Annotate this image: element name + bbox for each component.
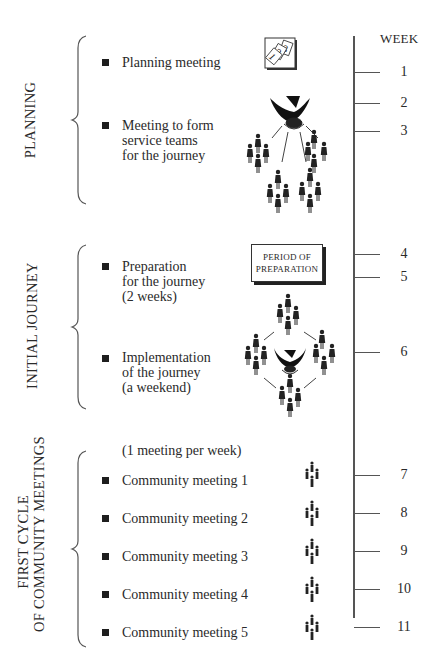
item-community-meeting-3: Community meeting 3 bbox=[122, 549, 248, 564]
dove-surrounded-by-people-icon bbox=[244, 292, 344, 420]
bullet bbox=[102, 122, 109, 129]
brace-first-cycle bbox=[70, 449, 90, 649]
week-axis-title: WEEK bbox=[380, 31, 418, 47]
week-label: 10 bbox=[389, 581, 419, 597]
week-tick bbox=[354, 103, 380, 104]
week-tick bbox=[354, 352, 380, 353]
brace-initial-journey bbox=[70, 243, 90, 411]
week-label: 9 bbox=[389, 543, 419, 559]
phase-label-line-2: OF COMMUNITY MEETINGS bbox=[31, 452, 47, 632]
bullet bbox=[102, 553, 109, 560]
bullet bbox=[102, 263, 109, 270]
brace-planning bbox=[70, 34, 90, 206]
bullet bbox=[102, 59, 109, 66]
week-tick bbox=[354, 627, 380, 628]
week-tick bbox=[354, 513, 380, 514]
item-form-service-teams: Meeting to form service teams for the jo… bbox=[122, 118, 214, 163]
week-label: 8 bbox=[389, 505, 419, 521]
calendar-123-icon: 3 2 1 bbox=[263, 36, 299, 72]
bullet bbox=[102, 355, 109, 362]
item-preparation: Preparation for the journey (2 weeks) bbox=[122, 259, 205, 304]
small-group-icon bbox=[303, 460, 321, 490]
period-of-preparation-box: PERIOD OF PREPARATION bbox=[251, 244, 323, 282]
item-community-meeting-2: Community meeting 2 bbox=[122, 511, 248, 526]
item-implementation: Implementation of the journey (a weekend… bbox=[122, 350, 211, 395]
week-label: 7 bbox=[389, 467, 419, 483]
week-label: 2 bbox=[389, 95, 419, 111]
phase-label-first-cycle: FIRST CYCLE OF COMMUNITY MEETINGS bbox=[15, 452, 49, 632]
week-label: 5 bbox=[389, 269, 419, 285]
week-label: 6 bbox=[389, 344, 419, 360]
small-group-icon bbox=[303, 499, 321, 529]
bullet bbox=[102, 477, 109, 484]
item-planning-meeting: Planning meeting bbox=[122, 55, 220, 70]
small-group-icon bbox=[303, 613, 321, 643]
item-community-meeting-5: Community meeting 5 bbox=[122, 625, 248, 640]
bullet bbox=[102, 515, 109, 522]
week-label: 3 bbox=[389, 123, 419, 139]
week-label: 1 bbox=[389, 64, 419, 80]
week-tick bbox=[354, 277, 380, 278]
phase-label-line-1: FIRST CYCLE bbox=[15, 452, 31, 632]
phase-label-planning: PLANNING bbox=[22, 80, 38, 160]
item-community-meeting-1: Community meeting 1 bbox=[122, 473, 248, 488]
phase-label-initial-journey: INITIAL JOURNEY bbox=[24, 269, 40, 389]
small-group-icon bbox=[303, 575, 321, 605]
item-community-meeting-4: Community meeting 4 bbox=[122, 587, 248, 602]
week-axis-line bbox=[353, 36, 355, 618]
week-tick bbox=[354, 551, 380, 552]
small-group-icon bbox=[303, 537, 321, 567]
week-tick bbox=[354, 475, 380, 476]
week-tick bbox=[354, 131, 380, 132]
bullet bbox=[102, 591, 109, 598]
dove-with-teams-icon bbox=[238, 92, 350, 218]
week-tick bbox=[354, 254, 380, 255]
week-tick bbox=[354, 72, 380, 73]
week-tick bbox=[354, 589, 380, 590]
week-label: 11 bbox=[389, 619, 419, 635]
week-label: 4 bbox=[389, 246, 419, 262]
bullet bbox=[102, 629, 109, 636]
note-one-meeting-per-week: (1 meeting per week) bbox=[122, 443, 241, 458]
